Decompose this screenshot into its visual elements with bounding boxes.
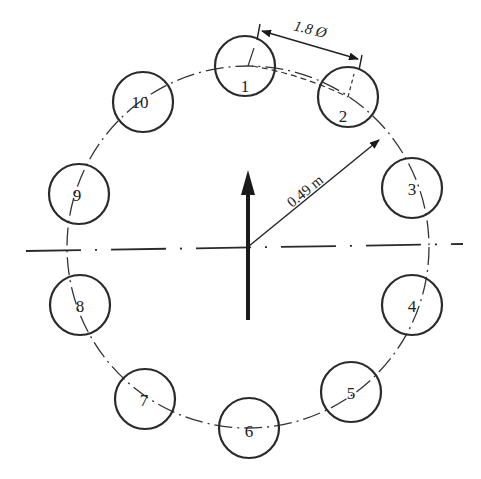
- element-label: 1: [241, 77, 250, 96]
- element-6: 6: [219, 398, 279, 458]
- spacing-dimension: 1.8 Ø: [248, 17, 362, 97]
- element-label: 8: [76, 297, 85, 316]
- element-label: 7: [140, 391, 149, 410]
- element-9: 9: [49, 164, 109, 224]
- element-label: 9: [73, 186, 82, 205]
- element-label: 3: [408, 180, 417, 199]
- element-5: 5: [321, 362, 381, 422]
- radius-label: 0.49 m: [284, 171, 327, 210]
- direction-arrow-icon: [241, 170, 255, 320]
- element-label: 2: [339, 107, 348, 126]
- element-10: 10: [113, 72, 173, 132]
- element-label: 10: [132, 93, 149, 112]
- element-label: 6: [245, 422, 254, 441]
- element-7: 7: [115, 369, 175, 429]
- horizontal-centerline: [26, 244, 463, 251]
- element-label: 5: [347, 384, 356, 403]
- element-3: 3: [382, 158, 442, 218]
- element-4: 4: [382, 275, 442, 335]
- element-8: 8: [50, 275, 110, 335]
- circular-array-diagram: 0.49 m 1.8 Ø 1 2 3 4: [0, 0, 481, 479]
- radius-dimension: 0.49 m: [249, 140, 379, 246]
- element-label: 4: [408, 297, 417, 316]
- spacing-label: 1.8 Ø: [292, 17, 329, 41]
